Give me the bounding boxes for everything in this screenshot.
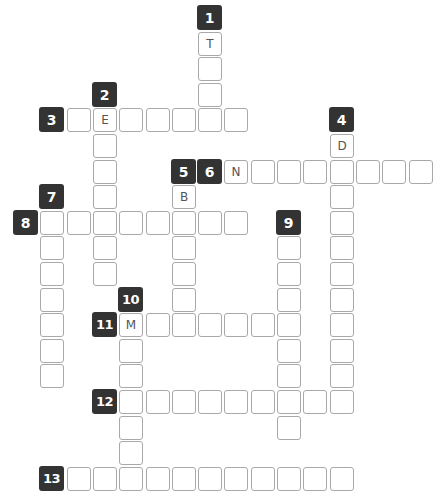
crossword-cell[interactable]: D [330,134,354,158]
crossword-cell[interactable] [224,313,248,337]
crossword-cell[interactable] [119,416,143,440]
crossword-cell[interactable] [224,467,248,491]
crossword-cell[interactable] [119,108,143,132]
clue-number-12: 12 [92,389,117,414]
crossword-cell[interactable] [277,364,301,388]
crossword-cell[interactable] [198,390,222,414]
crossword-cell[interactable] [330,236,354,260]
crossword-cell[interactable] [277,390,301,414]
crossword-cell[interactable] [224,108,248,132]
crossword-cell[interactable] [277,288,301,312]
crossword-cell[interactable] [93,134,117,158]
crossword-cell[interactable] [330,211,354,235]
crossword-cell[interactable] [119,467,143,491]
crossword-cell[interactable] [251,160,275,184]
crossword-cell[interactable] [224,211,248,235]
crossword-cell[interactable] [172,313,196,337]
crossword-cell[interactable] [330,160,354,184]
clue-number-3: 3 [39,107,64,132]
crossword-cell[interactable] [277,416,301,440]
crossword-cell[interactable] [67,211,91,235]
crossword-cell[interactable] [93,185,117,209]
crossword-cell[interactable] [198,83,222,107]
crossword-cell[interactable] [119,339,143,363]
crossword-cell[interactable] [146,313,170,337]
clue-number-13: 13 [39,466,64,491]
crossword-cell[interactable] [356,160,380,184]
crossword-cell[interactable] [198,57,222,81]
crossword-cell[interactable] [198,313,222,337]
crossword-cell[interactable] [224,390,248,414]
crossword-cell[interactable] [40,288,64,312]
crossword-cell[interactable] [409,160,433,184]
crossword-cell[interactable] [303,160,327,184]
crossword-cell[interactable] [40,364,64,388]
crossword-cell[interactable]: M [119,313,143,337]
crossword-cell[interactable] [251,467,275,491]
crossword-cell[interactable] [198,467,222,491]
clue-number-1: 1 [197,5,222,30]
clue-number-6: 6 [197,159,222,184]
crossword-cell[interactable] [119,364,143,388]
crossword-cell[interactable] [330,185,354,209]
crossword-cell[interactable] [277,236,301,260]
crossword-cell[interactable] [198,211,222,235]
crossword-cell[interactable] [93,211,117,235]
crossword-cell[interactable] [330,288,354,312]
crossword-cell[interactable] [277,262,301,286]
crossword-cell[interactable] [40,313,64,337]
crossword-cell[interactable] [172,108,196,132]
crossword-cell[interactable] [303,467,327,491]
crossword-cell[interactable] [198,108,222,132]
crossword-cell[interactable] [67,467,91,491]
crossword-cell[interactable] [330,262,354,286]
crossword-cell[interactable] [251,313,275,337]
crossword-cell[interactable] [93,262,117,286]
clue-number-2: 2 [92,82,117,107]
crossword-cell[interactable] [172,211,196,235]
crossword-cell[interactable] [40,339,64,363]
crossword-cell[interactable] [119,211,143,235]
crossword-cell[interactable] [119,441,143,465]
crossword-cell[interactable]: N [224,160,248,184]
crossword-cell[interactable] [172,467,196,491]
crossword-cell[interactable] [146,467,170,491]
crossword-cell[interactable] [277,160,301,184]
crossword-cell[interactable] [40,236,64,260]
crossword-cell[interactable] [251,390,275,414]
crossword-cell[interactable] [330,313,354,337]
crossword-cell[interactable] [40,262,64,286]
clue-number-8: 8 [13,210,38,235]
crossword-cell[interactable] [330,390,354,414]
crossword-cell[interactable] [303,390,327,414]
clue-number-7: 7 [39,184,64,209]
crossword-cell[interactable] [330,467,354,491]
crossword-cell[interactable] [146,211,170,235]
clue-number-9: 9 [276,210,301,235]
crossword-cell[interactable] [172,262,196,286]
crossword-cell[interactable] [277,467,301,491]
crossword-cell[interactable] [172,288,196,312]
crossword-cell[interactable]: E [93,108,117,132]
clue-number-11: 11 [92,312,117,337]
crossword-cell[interactable] [172,390,196,414]
crossword-cell[interactable] [40,211,64,235]
crossword-cell[interactable] [277,313,301,337]
clue-number-4: 4 [329,107,354,132]
crossword-cell[interactable] [277,339,301,363]
crossword-cell[interactable]: B [172,185,196,209]
crossword-cell[interactable] [330,364,354,388]
crossword-cell[interactable] [382,160,406,184]
crossword-cell[interactable] [93,467,117,491]
crossword-cell[interactable] [93,236,117,260]
crossword-cell[interactable] [67,108,91,132]
clue-number-10: 10 [118,287,143,312]
crossword-cell[interactable] [93,160,117,184]
crossword-cell[interactable] [146,108,170,132]
crossword-cell[interactable] [172,236,196,260]
crossword-cell[interactable] [330,339,354,363]
crossword-cell[interactable]: T [198,32,222,56]
crossword-cell[interactable] [146,390,170,414]
crossword-cell[interactable] [119,390,143,414]
